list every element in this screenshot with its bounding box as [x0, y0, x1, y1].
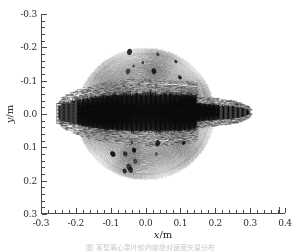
x-tick-major — [285, 208, 286, 213]
y-tick-major — [42, 181, 47, 182]
y-tick-minor — [42, 167, 45, 168]
y-tick-minor — [42, 101, 45, 102]
x-tick-minor — [132, 210, 133, 213]
figure-container: 0.30.20.10.0-0.1-0.2-0.3 -0.3-0.2-0.10.0… — [0, 0, 301, 252]
x-tick-minor — [208, 210, 209, 213]
x-tick-major — [180, 208, 181, 213]
x-tick-minor — [48, 210, 49, 213]
x-tick-minor — [83, 210, 84, 213]
y-ticklabel: -0.3 — [20, 9, 37, 19]
x-tick-minor — [97, 210, 98, 213]
y-tick-minor — [42, 21, 45, 22]
x-tick-minor — [257, 210, 258, 213]
y-tick-minor — [42, 54, 45, 55]
x-ticklabel: 0.3 — [243, 218, 257, 228]
y-tick-minor — [42, 41, 45, 42]
x-tick-minor — [278, 210, 279, 213]
y-ticklabel: 0.0 — [23, 109, 37, 119]
y-tick-minor — [42, 154, 45, 155]
figure-caption: 图 某型离心泵叶轮内部绝对速度矢量分布 — [0, 243, 301, 252]
y-axis-title-symbol: y — [4, 118, 15, 124]
y-tick-minor — [42, 67, 45, 68]
x-tick-minor — [243, 210, 244, 213]
y-tick-minor — [42, 107, 45, 108]
y-tick-major — [42, 147, 47, 148]
x-tick-minor — [90, 210, 91, 213]
y-ticklabel: -0.1 — [20, 76, 37, 86]
y-tick-minor — [42, 127, 45, 128]
x-tick-minor — [236, 210, 237, 213]
y-tick-minor — [42, 201, 45, 202]
y-tick-minor — [42, 94, 45, 95]
x-ticklabel: 0.0 — [139, 218, 153, 228]
y-tick-minor — [42, 121, 45, 122]
x-ticklabel: 0.1 — [174, 218, 188, 228]
y-tick-minor — [42, 207, 45, 208]
x-axis-title-unit: /m — [159, 229, 172, 240]
x-tick-minor — [222, 210, 223, 213]
x-tick-minor — [264, 210, 265, 213]
x-tick-minor — [69, 210, 70, 213]
y-tick-minor — [42, 74, 45, 75]
x-tick-major — [111, 208, 112, 213]
x-tick-major — [76, 208, 77, 213]
y-tick-minor — [42, 174, 45, 175]
x-tick-minor — [160, 210, 161, 213]
y-tick-minor — [42, 61, 45, 62]
y-tick-major — [42, 81, 47, 82]
x-tick-minor — [201, 210, 202, 213]
y-axis-title-unit: /m — [4, 105, 15, 118]
x-ticklabel: 0.4 — [278, 218, 292, 228]
x-tick-minor — [194, 210, 195, 213]
y-tick-minor — [42, 27, 45, 28]
x-tick-minor — [62, 210, 63, 213]
plot-area — [41, 14, 285, 214]
y-tick-minor — [42, 194, 45, 195]
x-tick-minor — [229, 210, 230, 213]
y-tick-minor — [42, 34, 45, 35]
x-tick-minor — [166, 210, 167, 213]
x-ticklabel: -0.3 — [33, 218, 50, 228]
y-tick-minor — [42, 134, 45, 135]
x-axis-title: x/m — [154, 229, 173, 240]
x-tick-minor — [153, 210, 154, 213]
y-tick-minor — [42, 161, 45, 162]
y-tick-minor — [42, 187, 45, 188]
x-ticklabel: -0.1 — [102, 218, 119, 228]
y-tick-major — [42, 14, 47, 15]
x-tick-minor — [139, 210, 140, 213]
axis-spine-bottom — [41, 213, 285, 214]
y-tick-major — [42, 114, 47, 115]
y-ticklabel: -0.2 — [20, 42, 37, 52]
y-tick-major — [42, 214, 47, 215]
axis-spine-right-stub — [279, 207, 280, 214]
x-tick-major — [250, 208, 251, 213]
x-ticklabel: 0.2 — [208, 218, 222, 228]
x-tick-minor — [271, 210, 272, 213]
y-tick-major — [42, 47, 47, 48]
x-tick-minor — [55, 210, 56, 213]
x-tick-minor — [104, 210, 105, 213]
y-ticklabel: 0.1 — [23, 142, 37, 152]
x-tick-minor — [125, 210, 126, 213]
y-ticklabel: 0.2 — [23, 176, 37, 186]
x-tick-major — [215, 208, 216, 213]
x-tick-minor — [173, 210, 174, 213]
x-tick-major — [41, 208, 42, 213]
x-tick-minor — [118, 210, 119, 213]
y-axis-title: y/m — [4, 105, 15, 124]
x-tick-minor — [187, 210, 188, 213]
x-ticklabel: -0.2 — [68, 218, 85, 228]
vector-field-canvas — [41, 14, 285, 214]
y-tick-minor — [42, 87, 45, 88]
x-tick-major — [146, 208, 147, 213]
y-tick-minor — [42, 141, 45, 142]
